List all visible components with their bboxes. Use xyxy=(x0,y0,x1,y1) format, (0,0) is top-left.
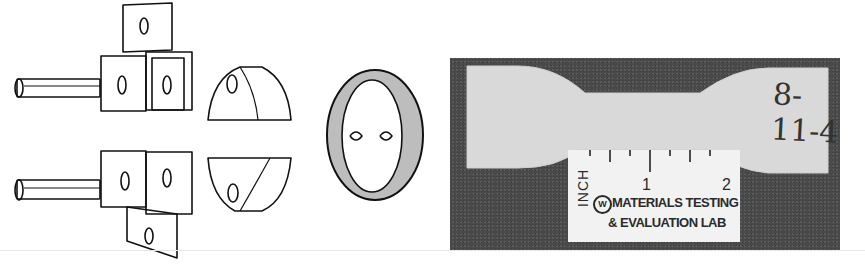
grip-assembly-drawing xyxy=(0,0,440,266)
divider xyxy=(0,250,865,251)
lab-logo-icon: W xyxy=(593,195,612,214)
upper-half-collar xyxy=(208,67,291,120)
upper-grip xyxy=(15,3,192,111)
lab-name-line1: MATERIALS TESTING xyxy=(612,195,738,210)
split-ring xyxy=(327,70,423,200)
ruler-label-2: 2 xyxy=(722,176,731,194)
lower-grip-front-plate xyxy=(101,151,146,207)
upper-grip-hole xyxy=(118,76,126,94)
upper-grip-front-plate xyxy=(101,56,146,111)
inch-ruler: 1 2 INCH W MATERIALS TESTING & EVALUATIO… xyxy=(568,150,740,242)
lab-name-line2: & EVALUATION LAB xyxy=(608,215,726,230)
lower-pin xyxy=(17,180,100,199)
specimen-photo: 8-11-4 1 2 INCH W MATERIALS TESTING & EV… xyxy=(450,58,840,250)
upper-pin xyxy=(17,79,100,97)
ruler-unit-label: INCH xyxy=(575,169,591,207)
upper-grip-side xyxy=(146,52,192,110)
specimen-id-mark: 8-11-4 xyxy=(770,76,842,149)
lower-grip xyxy=(15,151,192,258)
ruler-ticks xyxy=(568,150,740,180)
ruler-label-1: 1 xyxy=(642,176,651,194)
lower-half-collar xyxy=(208,158,291,211)
